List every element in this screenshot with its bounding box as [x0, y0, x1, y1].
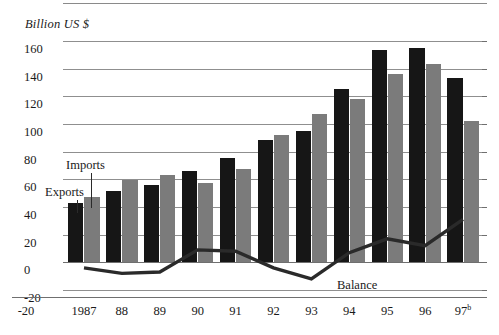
annotation-exports-leader	[77, 200, 78, 213]
balance-line	[84, 219, 463, 279]
chart-figure: Billion US $ 160140120100806040200-20 Im…	[0, 0, 499, 335]
annotation-imports-label: Imports	[66, 159, 105, 172]
annotation-imports-leader	[91, 173, 92, 208]
x-axis-tick-97: 97b	[439, 305, 487, 318]
x-axis-tick--20: -20	[2, 305, 50, 318]
annotation-balance-label: Balance	[337, 279, 377, 292]
x-axis-tick-label-text: 97	[455, 304, 468, 318]
x-axis-footnote-marker: b	[467, 303, 471, 312]
annotation-exports-label: Exports	[45, 186, 84, 199]
x-axis-rule	[12, 297, 487, 298]
